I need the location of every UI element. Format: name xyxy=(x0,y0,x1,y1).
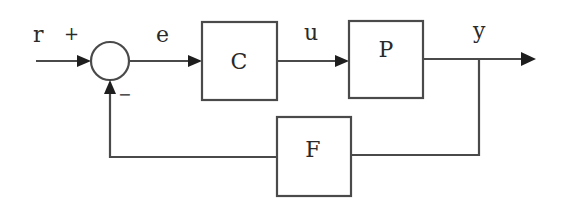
reference-signal-label: r xyxy=(33,22,44,47)
output-arrow-icon xyxy=(521,52,536,66)
output-signal-label: y xyxy=(472,18,486,43)
input-arrow-icon xyxy=(77,55,91,67)
error-signal-label: e xyxy=(156,22,169,47)
plus-sign-label: + xyxy=(64,23,79,44)
block-diagram: r + − e C u P y F xyxy=(0,0,564,206)
controller-block-label: C xyxy=(231,49,248,74)
control-signal-label: u xyxy=(304,20,318,45)
summing-junction xyxy=(91,42,129,80)
minus-sign-label: − xyxy=(118,85,131,104)
plant-block-label: P xyxy=(379,37,394,62)
feedback-block-label: F xyxy=(305,137,320,162)
feedback-arrow-icon xyxy=(104,80,116,94)
control-arrow-icon xyxy=(335,55,349,67)
error-arrow-icon xyxy=(188,55,202,67)
